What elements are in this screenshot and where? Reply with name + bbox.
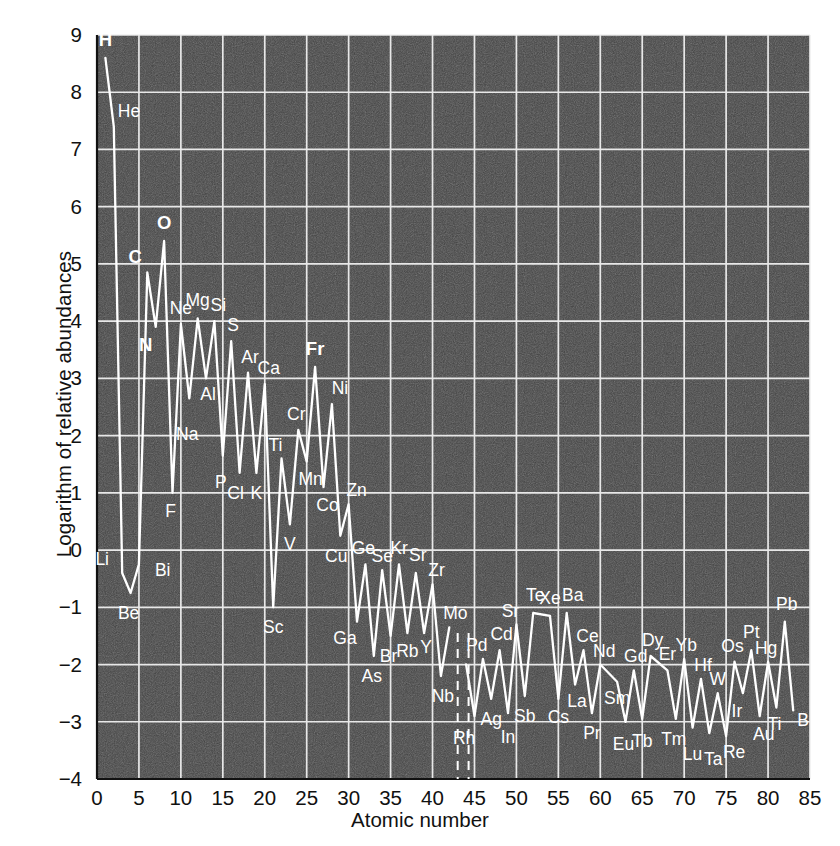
element-label-Ti: Ti	[269, 435, 283, 455]
element-label-Zn: Zn	[346, 480, 366, 500]
element-label-Y: Y	[420, 637, 432, 657]
element-label-Kr: Kr	[390, 538, 408, 558]
element-label-Li: Li	[95, 549, 109, 569]
element-label-Cu: Cu	[325, 546, 347, 566]
element-label-P: P	[215, 472, 227, 492]
element-label-Ba: Ba	[562, 585, 584, 605]
element-label-Ta: Ta	[704, 749, 723, 769]
element-label-Fr: Fr	[306, 338, 325, 359]
element-label-S: S	[227, 315, 239, 335]
element-label-Be: Be	[118, 603, 139, 623]
element-label-H: H	[99, 29, 112, 50]
element-label-Lu: Lu	[683, 744, 702, 764]
element-label-La: La	[567, 691, 587, 711]
element-label-Tb: Tb	[632, 731, 652, 751]
element-label-Si: Si	[211, 295, 227, 315]
element-label-Rh: Rh	[453, 728, 475, 748]
element-label-Re: Re	[723, 742, 745, 762]
element-label-Ir: Ir	[732, 701, 743, 721]
element-label-Pb: Pb	[776, 594, 797, 614]
element-label-Ga: Ga	[333, 628, 357, 648]
element-label-Sc: Sc	[263, 617, 284, 637]
element-label-F: F	[165, 501, 176, 521]
element-label-Ca: Ca	[258, 358, 281, 378]
element-label-K: K	[251, 483, 263, 503]
element-label-Sm: Sm	[604, 688, 630, 708]
element-label-V: V	[284, 534, 296, 554]
element-label-Cd: Cd	[490, 624, 512, 644]
element-label-As: As	[362, 666, 383, 686]
element-label-Sb: Sb	[514, 706, 535, 726]
element-label-Ni: Ni	[332, 378, 349, 398]
element-label-Ar: Ar	[241, 347, 259, 367]
element-label-Nd: Nd	[593, 641, 615, 661]
element-label-Zr: Zr	[428, 560, 445, 580]
element-label-Os: Os	[721, 636, 744, 656]
element-label-C: C	[129, 246, 142, 267]
element-label-Yb: Yb	[675, 635, 696, 655]
element-label-O: O	[157, 212, 171, 233]
element-label-W: W	[709, 669, 726, 689]
element-label-Al: Al	[200, 384, 216, 404]
element-label-Er: Er	[659, 644, 677, 664]
element-label-He: He	[118, 101, 140, 121]
element-label-Bi: Bi	[155, 560, 171, 580]
element-label-Cl: Cl	[227, 483, 244, 503]
element-label-Cs: Cs	[548, 707, 570, 727]
abundance-chart: Logarithm of relative abundances Atomic …	[0, 0, 840, 846]
plot-area: HHeLiBeBiCNOFNeNaMgAlSiPSClArKCaScTiVCrM…	[0, 0, 840, 846]
element-label-Na: Na	[176, 424, 199, 444]
element-label-Br: Br	[380, 646, 398, 666]
element-label-N: N	[139, 334, 152, 355]
element-label-In: In	[501, 727, 516, 747]
element-label-Rb: Rb	[396, 641, 418, 661]
element-label-Mg: Mg	[186, 290, 210, 310]
element-label-B: B	[797, 710, 809, 730]
element-label-Mn: Mn	[299, 469, 323, 489]
element-label-Cr: Cr	[287, 404, 306, 424]
element-label-Nb: Nb	[432, 686, 454, 706]
element-label-Co: Co	[316, 495, 338, 515]
element-label-Ag: Ag	[480, 709, 501, 729]
element-label-Xe: Xe	[539, 588, 560, 608]
element-label-Pr: Pr	[583, 723, 601, 743]
element-label-Sr: Sr	[502, 601, 520, 621]
element-label-Hg: Hg	[755, 638, 777, 658]
element-label-Sr: Sr	[409, 545, 427, 565]
element-label-Pd: Pd	[466, 635, 487, 655]
element-label-Mo: Mo	[443, 603, 467, 623]
element-label-Ti: Ti	[767, 714, 781, 734]
